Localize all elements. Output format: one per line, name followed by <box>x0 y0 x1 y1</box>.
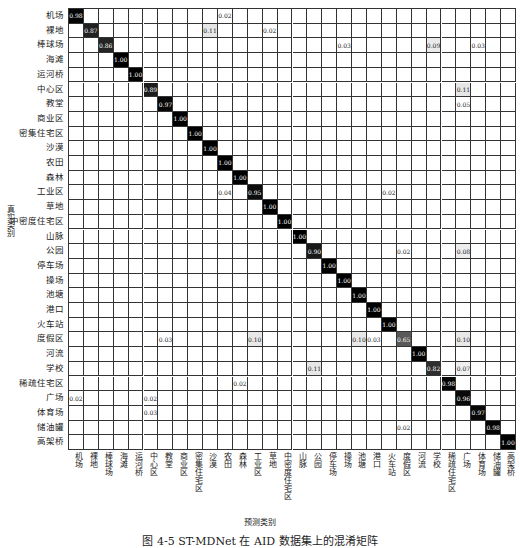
matrix-cell <box>412 156 427 171</box>
matrix-cell <box>307 391 322 406</box>
matrix-cell <box>263 127 278 142</box>
matrix-cell <box>307 288 322 303</box>
matrix-cell <box>233 362 248 377</box>
column-label: 操场 <box>336 452 351 468</box>
matrix-cell <box>412 9 427 24</box>
matrix-cell <box>293 406 308 421</box>
matrix-cell <box>263 230 278 245</box>
matrix-cell <box>442 362 457 377</box>
matrix-cell <box>382 83 397 98</box>
matrix-cell <box>69 274 84 289</box>
matrix-cell: 0.02 <box>397 244 412 259</box>
matrix-cell <box>456 274 471 289</box>
matrix-cell <box>84 318 99 333</box>
matrix-cell <box>203 318 218 333</box>
row-label: 高架桥 <box>0 434 64 449</box>
matrix-cell <box>293 244 308 259</box>
matrix-cell <box>84 244 99 259</box>
matrix-cell: 1.00 <box>382 318 397 333</box>
matrix-cell <box>293 97 308 112</box>
matrix-cell <box>114 200 129 215</box>
matrix-cell <box>218 127 233 142</box>
matrix-cell <box>367 274 382 289</box>
matrix-cell <box>352 274 367 289</box>
matrix-cell <box>337 215 352 230</box>
matrix-cell <box>501 362 516 377</box>
matrix-cell <box>278 406 293 421</box>
matrix-cell <box>188 230 203 245</box>
matrix-cell <box>501 156 516 171</box>
matrix-cell <box>427 112 442 127</box>
matrix-cell <box>367 288 382 303</box>
matrix-cell <box>471 391 486 406</box>
matrix-cell <box>173 215 188 230</box>
matrix-cell: 0.02 <box>69 391 84 406</box>
matrix-cell: 0.05 <box>456 97 471 112</box>
matrix-cell <box>173 171 188 186</box>
matrix-cell <box>367 362 382 377</box>
column-label: 裸地 <box>83 452 98 468</box>
matrix-cell: 0.96 <box>456 391 471 406</box>
column-label: 火车站 <box>381 452 396 476</box>
matrix-cell <box>278 244 293 259</box>
matrix-cell <box>99 156 114 171</box>
matrix-cell <box>442 406 457 421</box>
matrix-cell <box>367 230 382 245</box>
matrix-cell <box>99 215 114 230</box>
matrix-cell <box>129 303 144 318</box>
matrix-cell <box>442 288 457 303</box>
matrix-cell <box>263 68 278 83</box>
matrix-cell <box>114 362 129 377</box>
matrix-cell <box>307 200 322 215</box>
matrix-cell <box>158 259 173 274</box>
matrix-cell <box>173 9 188 24</box>
row-label: 运河桥 <box>0 67 64 82</box>
matrix-cell <box>382 171 397 186</box>
matrix-cell <box>129 421 144 436</box>
matrix-cell <box>367 406 382 421</box>
matrix-cell: 1.00 <box>367 303 382 318</box>
matrix-cell <box>263 274 278 289</box>
matrix-cell <box>382 362 397 377</box>
matrix-cell <box>337 230 352 245</box>
matrix-cell <box>173 303 188 318</box>
row-label: 公园 <box>0 243 64 258</box>
matrix-cell <box>173 259 188 274</box>
matrix-cell <box>99 303 114 318</box>
matrix-cell: 0.10 <box>352 332 367 347</box>
matrix-cell <box>412 185 427 200</box>
matrix-cell <box>412 127 427 142</box>
matrix-cell <box>397 83 412 98</box>
matrix-cell <box>352 303 367 318</box>
matrix-cell: 0.10 <box>456 332 471 347</box>
matrix-cell <box>203 362 218 377</box>
matrix-cell <box>337 156 352 171</box>
matrix-cell <box>322 391 337 406</box>
matrix-cell <box>352 156 367 171</box>
matrix-cell <box>501 421 516 436</box>
matrix-cell <box>382 97 397 112</box>
matrix-cell <box>144 421 159 436</box>
matrix-cell <box>114 318 129 333</box>
matrix-cell <box>427 303 442 318</box>
matrix-cell <box>99 391 114 406</box>
matrix-cell <box>397 68 412 83</box>
matrix-cell <box>84 185 99 200</box>
matrix-cell <box>367 156 382 171</box>
matrix-cell <box>99 171 114 186</box>
row-label: 山脉 <box>0 229 64 244</box>
matrix-cell <box>278 288 293 303</box>
matrix-cell <box>173 406 188 421</box>
column-label: 商业区 <box>172 452 187 476</box>
matrix-grid: 0.980.020.870.110.020.860.030.090.031.00… <box>68 8 516 450</box>
matrix-cell <box>471 259 486 274</box>
matrix-cell <box>337 112 352 127</box>
matrix-cell <box>367 215 382 230</box>
matrix-cell <box>471 112 486 127</box>
matrix-cell <box>367 377 382 392</box>
matrix-cell <box>397 171 412 186</box>
matrix-cell <box>173 24 188 39</box>
matrix-cell: 0.95 <box>248 185 263 200</box>
matrix-cell <box>173 435 188 450</box>
matrix-cell <box>158 215 173 230</box>
